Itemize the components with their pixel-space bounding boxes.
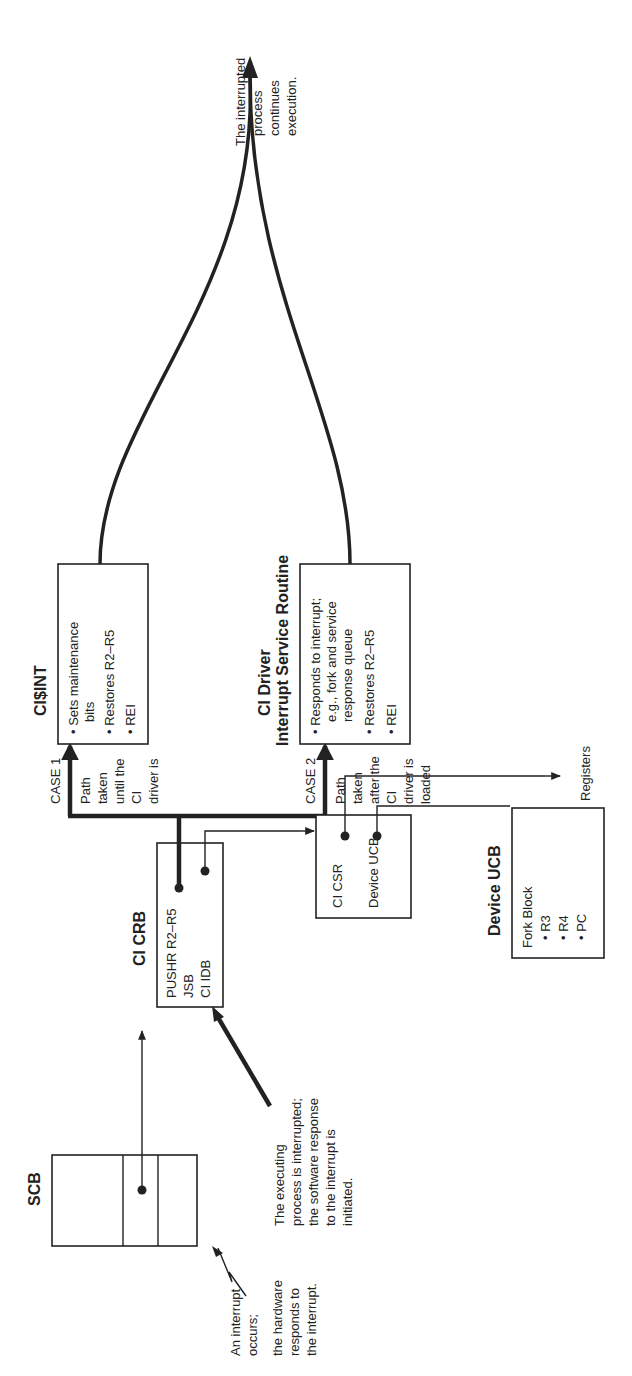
svg-text:until the: until the bbox=[112, 758, 127, 804]
svg-text:e.g., fork and service: e.g., fork and service bbox=[324, 601, 339, 722]
svg-text:response queue: response queue bbox=[340, 629, 355, 722]
svg-text:the hardware: the hardware bbox=[270, 1280, 285, 1356]
svg-text:CI: CI bbox=[129, 791, 144, 804]
ci-driver-title-line2: Interrupt Service Routine bbox=[274, 555, 291, 746]
svg-text:• Sets maintenance: • Sets maintenance bbox=[66, 622, 81, 734]
svg-text:• Responds to interrupt;: • Responds to interrupt; bbox=[308, 598, 323, 734]
case1-note: Path taken until the CI driver is bbox=[78, 758, 161, 804]
hardware-responds-text: the hardware responds to the interrupt. bbox=[270, 1280, 319, 1356]
interrupt-occurs-text: An interrupt occurs; bbox=[228, 1288, 260, 1356]
svg-text:taken: taken bbox=[350, 772, 365, 804]
svg-text:The executing: The executing bbox=[272, 1144, 287, 1226]
svg-text:Path: Path bbox=[78, 777, 93, 804]
svg-text:• REI: • REI bbox=[123, 704, 138, 734]
svg-text:after the: after the bbox=[367, 756, 382, 804]
process-interrupted-pointer bbox=[216, 1014, 270, 1106]
ci-idb-block: CI IDB CI CSR Device UCB bbox=[316, 815, 411, 918]
svg-text:the interrupt.: the interrupt. bbox=[304, 1283, 319, 1356]
svg-text:execution.: execution. bbox=[284, 77, 299, 136]
svg-text:CI: CI bbox=[384, 791, 399, 804]
svg-text:continues: continues bbox=[267, 80, 282, 136]
ci-driver-return-curve bbox=[250, 76, 350, 564]
svg-text:process is interrupted;: process is interrupted; bbox=[289, 1098, 304, 1226]
ci-driver-block: CI Driver Interrupt Service Routine • Re… bbox=[256, 555, 410, 746]
diagram-stage: SCB SCB An interrupt occurs; the hardwar… bbox=[0, 0, 632, 1376]
ci-int-block: CI$INT • Sets maintenance bits • Restore… bbox=[32, 564, 148, 744]
scb-title-label: SCB bbox=[26, 1172, 43, 1206]
svg-text:• R3: • R3 bbox=[538, 915, 553, 940]
process-continues-text-block: process continues execution. bbox=[250, 77, 299, 136]
svg-text:CI IDB: CI IDB bbox=[198, 960, 213, 998]
svg-text:taken: taken bbox=[95, 772, 110, 804]
svg-text:initiated.: initiated. bbox=[340, 1178, 355, 1226]
device-ucb-block: Device UCB Fork Block • R3 • R4 • PC bbox=[486, 808, 604, 958]
svg-text:bits: bits bbox=[82, 701, 97, 722]
ci-driver-title-line1: CI Driver bbox=[256, 649, 273, 716]
case1-label: CASE 1 bbox=[48, 758, 63, 804]
svg-text:• R4: • R4 bbox=[556, 915, 571, 940]
svg-text:An interrupt: An interrupt bbox=[228, 1288, 243, 1356]
svg-text:driver is: driver is bbox=[401, 758, 416, 804]
svg-text:to the interrupt is: to the interrupt is bbox=[323, 1129, 338, 1226]
svg-text:responds to: responds to bbox=[287, 1288, 302, 1356]
ci-crb-title: CI CRB bbox=[131, 911, 148, 966]
svg-text:• Restores R2–R5: • Restores R2–R5 bbox=[102, 630, 117, 734]
svg-text:Device UCB: Device UCB bbox=[366, 837, 381, 908]
svg-text:PUSHR R2–R5: PUSHR R2–R5 bbox=[164, 908, 179, 998]
svg-text:JSB: JSB bbox=[181, 974, 196, 998]
svg-text:The interrupted: The interrupted bbox=[233, 58, 248, 146]
device-ucb-title: Device UCB bbox=[486, 845, 503, 936]
svg-text:• PC: • PC bbox=[574, 914, 589, 940]
svg-text:the software response: the software response bbox=[306, 1098, 321, 1226]
svg-text:process: process bbox=[250, 90, 265, 136]
svg-text:occurs;: occurs; bbox=[245, 1314, 260, 1356]
process-interrupted-text: The executing process is interrupted; th… bbox=[272, 1098, 355, 1226]
interrupt-flow-diagram: SCB SCB An interrupt occurs; the hardwar… bbox=[0, 0, 632, 1376]
svg-text:driver is: driver is bbox=[146, 758, 161, 804]
svg-text:Path: Path bbox=[333, 777, 348, 804]
svg-text:Fork Block: Fork Block bbox=[520, 886, 535, 948]
case2-label: CASE 2 bbox=[303, 758, 318, 804]
ci-int-title: CI$INT bbox=[32, 665, 49, 716]
ci-int-return-curve bbox=[100, 76, 250, 564]
pointer-arrowhead-icon bbox=[212, 1006, 224, 1022]
svg-text:• Restores R2–R5: • Restores R2–R5 bbox=[362, 630, 377, 734]
case2-note: Path taken after the CI driver is loaded bbox=[333, 756, 433, 804]
scb-table: SCB bbox=[26, 1155, 197, 1246]
registers-label: Registers bbox=[578, 746, 593, 801]
svg-text:• REI: • REI bbox=[384, 704, 399, 734]
svg-text:CI CSR: CI CSR bbox=[330, 864, 345, 908]
svg-text:loaded: loaded bbox=[418, 765, 433, 804]
scb-box bbox=[52, 1155, 197, 1246]
process-continues-text: The interrupted bbox=[233, 58, 248, 146]
